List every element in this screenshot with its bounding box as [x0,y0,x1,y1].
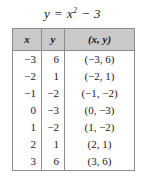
cell-x: 0 [13,102,42,119]
column-header-xy: (x, y) [65,29,135,51]
cell-y: 1 [42,68,65,85]
cell-y: −2 [42,85,65,102]
equation-title: y = x2 − 3 [0,6,145,22]
table-row: −21(−2, 1) [13,68,135,85]
cell-xy: (−2, 1) [65,68,135,85]
column-header-y: y [42,29,65,51]
table-header: x y (x, y) [13,29,135,51]
table-row: 0−3(0, −3) [13,102,135,119]
cell-x: 3 [13,153,42,171]
cell-xy: (3, 6) [65,153,135,171]
table-row: −1−2(−1, −2) [13,85,135,102]
cell-y: −3 [42,102,65,119]
table-row: 1−2(1, −2) [13,119,135,136]
cell-x: 1 [13,119,42,136]
equation-minus-sign: − [81,6,91,21]
cell-xy: (−1, −2) [65,85,135,102]
cell-x: 2 [13,136,42,153]
cell-y: −2 [42,119,65,136]
cell-xy: (−3, 6) [65,51,135,69]
cell-xy: (0, −3) [65,102,135,119]
table-row: 21(2, 1) [13,136,135,153]
table-row: 36(3, 6) [13,153,135,171]
cell-x: −2 [13,68,42,85]
cell-y: 6 [42,51,65,69]
table-row: −36(−3, 6) [13,51,135,69]
column-header-x: x [13,29,42,51]
cell-y: 1 [42,136,65,153]
equation-constant: 3 [94,6,101,21]
equation-lhs: y [44,6,50,21]
table-body: −36(−3, 6)−21(−2, 1)−1−2(−1, −2)0−3(0, −… [13,51,135,171]
equation-equals-sign: = [54,6,64,21]
equation-exponent: 2 [73,6,77,15]
cell-y: 6 [42,153,65,171]
cell-xy: (2, 1) [65,136,135,153]
cell-x: −3 [13,51,42,69]
cell-x: −1 [13,85,42,102]
table-header-row: x y (x, y) [13,29,135,51]
cell-xy: (1, −2) [65,119,135,136]
value-table: x y (x, y) −36(−3, 6)−21(−2, 1)−1−2(−1, … [12,28,135,171]
